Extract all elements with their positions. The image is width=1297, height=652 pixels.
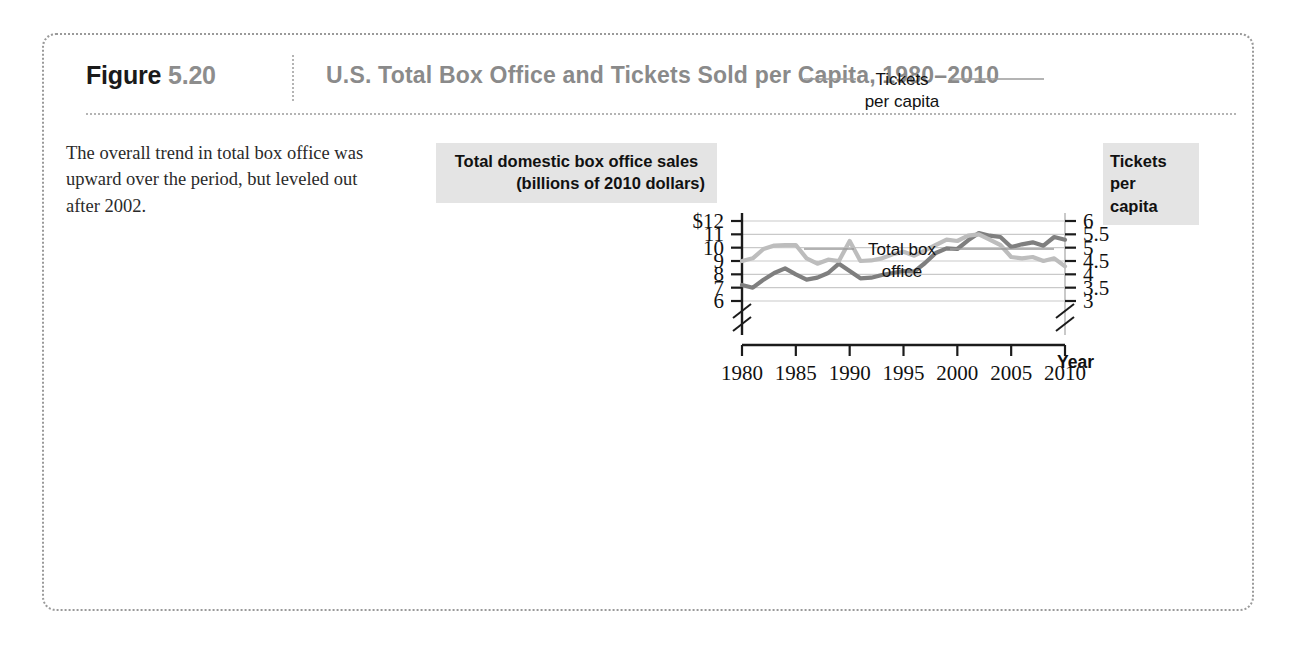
- chart-area: $121110987665.554.543.531980198519901995…: [44, 35, 1256, 613]
- chart-tick-labels: $121110987665.554.543.531980198519901995…: [693, 209, 1110, 385]
- x-tick-label: 1990: [829, 361, 871, 385]
- annotation-boxoffice-line1: Total box: [868, 240, 937, 259]
- x-tick-label: 2005: [990, 361, 1032, 385]
- line-chart: $121110987665.554.543.531980198519901995…: [44, 35, 1256, 613]
- annotation-boxoffice-line2: office: [882, 262, 922, 281]
- x-axis-title: Year: [1057, 352, 1094, 372]
- annotation-tickets-line2: per capita: [865, 92, 940, 111]
- figure-frame: Figure 5.20 U.S. Total Box Office and Ti…: [42, 33, 1254, 611]
- annotation-tickets-line1: Tickets: [875, 70, 928, 89]
- x-tick-label: 2000: [936, 361, 978, 385]
- x-tick-label: 1985: [775, 361, 817, 385]
- grid-lines: [742, 221, 1065, 301]
- y-tick-label-right: 3: [1083, 289, 1094, 313]
- y-tick-label-left: 6: [714, 289, 725, 313]
- x-tick-label: 1980: [721, 361, 763, 385]
- x-tick-label: 1995: [883, 361, 925, 385]
